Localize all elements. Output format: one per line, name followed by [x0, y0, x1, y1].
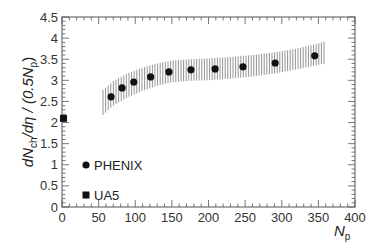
- x-tick-label: 0: [58, 210, 65, 225]
- x-tick-label: 400: [344, 210, 366, 225]
- phenix-data-point: [130, 78, 137, 85]
- y-tick-label: 3: [51, 73, 58, 88]
- x-axis-tick-labels: 050100150200250300350400: [58, 210, 365, 225]
- legend-item-phenix: PHENIX: [82, 158, 142, 173]
- phenix-data-point: [118, 84, 125, 91]
- x-tick-label: 350: [308, 210, 330, 225]
- phenix-data-point: [311, 52, 318, 59]
- y-axis-tick-labels: 00.511.522.533.544.5: [40, 10, 58, 215]
- x-tick-label: 50: [91, 210, 105, 225]
- legend-label: UA5: [94, 188, 119, 203]
- phenix-data-point: [272, 59, 279, 66]
- x-tick-label: 150: [161, 210, 183, 225]
- phenix-data-point: [211, 65, 218, 72]
- legend: PHENIX UA5: [82, 158, 142, 203]
- phenix-data-point: [165, 68, 172, 75]
- circle-marker-icon: [82, 161, 89, 168]
- x-tick-label: 250: [234, 210, 256, 225]
- phenix-data-point: [147, 73, 154, 80]
- y-tick-label: 2: [51, 115, 58, 130]
- x-tick-label: 200: [198, 210, 220, 225]
- chart: 050100150200250300350400 00.511.522.533.…: [0, 0, 382, 250]
- y-tick-label: 0.5: [40, 178, 58, 193]
- phenix-data-point: [187, 66, 194, 73]
- x-tick-label: 100: [124, 210, 146, 225]
- y-tick-label: 4: [51, 31, 58, 46]
- x-axis-title: Np: [334, 222, 351, 242]
- x-tick-label: 300: [271, 210, 293, 225]
- y-tick-label: 2.5: [40, 94, 58, 109]
- square-marker-icon: [83, 192, 90, 199]
- phenix-data-point: [239, 63, 246, 70]
- systematic-error-band: [103, 42, 324, 115]
- ua5-data-point: [60, 115, 67, 122]
- y-tick-label: 0: [51, 200, 58, 215]
- y-tick-label: 1: [51, 157, 58, 172]
- y-tick-label: 1.5: [40, 136, 58, 151]
- y-tick-label: 3.5: [40, 52, 58, 67]
- y-tick-label: 4.5: [40, 10, 58, 25]
- y-axis-title: dNch/dη / (0.5Np): [19, 57, 39, 167]
- legend-item-ua5: UA5: [83, 188, 120, 203]
- legend-label: PHENIX: [94, 158, 143, 173]
- phenix-data-point: [107, 93, 114, 100]
